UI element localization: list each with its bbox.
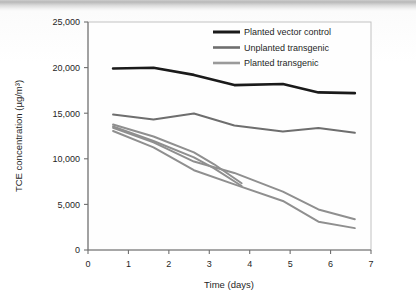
y-axis-title: TCE concentration (µg/m³) xyxy=(13,80,24,192)
legend-label-0: Planted vector control xyxy=(244,27,331,37)
y-tick-label-0: 0 xyxy=(75,245,80,255)
x-tick-label-3: 3 xyxy=(207,259,212,269)
x-tick-label-7: 7 xyxy=(368,259,373,269)
y-tick-label-2: 10,000 xyxy=(52,154,80,164)
y-tick-label-5: 25,000 xyxy=(52,17,80,27)
x-tick-label-1: 1 xyxy=(126,259,131,269)
y-axis-ticks xyxy=(84,22,88,250)
y-tick-label-1: 5,000 xyxy=(57,200,80,210)
chart-figure: 05,00010,00015,00020,00025,000 01234567 … xyxy=(0,0,416,297)
chart-svg: 05,00010,00015,00020,00025,000 01234567 … xyxy=(0,0,416,297)
y-tick-label-4: 20,000 xyxy=(52,63,80,73)
y-tick-label-3: 15,000 xyxy=(52,109,80,119)
y-axis-tick-labels: 05,00010,00015,00020,00025,000 xyxy=(52,17,80,255)
legend-label-2: Planted transgenic xyxy=(244,58,319,68)
x-axis-tick-labels: 01234567 xyxy=(85,259,373,269)
x-tick-label-2: 2 xyxy=(166,259,171,269)
x-axis-title: Time (days) xyxy=(204,279,254,290)
x-tick-label-5: 5 xyxy=(288,259,293,269)
x-tick-label-0: 0 xyxy=(85,259,90,269)
x-axis-ticks xyxy=(88,250,371,254)
x-tick-label-4: 4 xyxy=(247,259,252,269)
x-tick-label-6: 6 xyxy=(328,259,333,269)
legend-label-1: Unplanted transgenic xyxy=(244,43,330,53)
plot-area-frame xyxy=(88,22,371,250)
